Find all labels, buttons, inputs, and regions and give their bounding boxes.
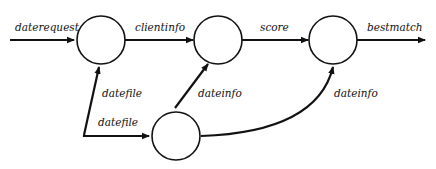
label-dateinfo-n3: dateinfo bbox=[334, 87, 378, 99]
process-node-3 bbox=[309, 16, 357, 64]
label-datefile-lower: datefile bbox=[98, 116, 138, 128]
edge-dateinfo-to-n2 bbox=[175, 64, 208, 108]
edge-datefile-to-n1 bbox=[84, 67, 99, 135]
process-node-1 bbox=[77, 16, 125, 64]
process-node-2 bbox=[194, 16, 242, 64]
edge-datefile-to-n4 bbox=[84, 135, 149, 136]
label-daterequest: daterequest bbox=[15, 21, 80, 33]
label-datefile-upper: datefile bbox=[102, 87, 142, 99]
label-bestmatch: bestmatch bbox=[367, 21, 423, 33]
label-score: score bbox=[260, 21, 289, 33]
label-dateinfo-n2: dateinfo bbox=[198, 87, 242, 99]
data-flow-diagram: daterequest clientinfo score bestmatch d… bbox=[0, 0, 436, 169]
label-clientinfo: clientinfo bbox=[135, 21, 185, 33]
process-node-4 bbox=[152, 112, 200, 160]
edge-dateinfo-to-n3 bbox=[201, 67, 333, 136]
